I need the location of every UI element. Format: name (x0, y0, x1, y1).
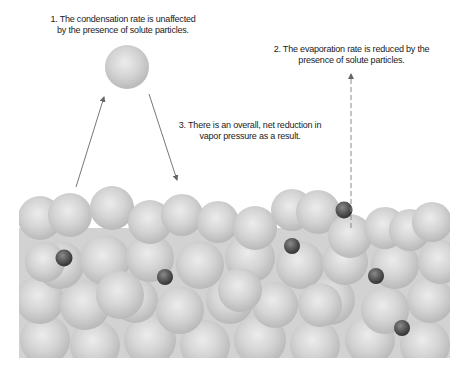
condensation-label: 1. The condensation rate is unaffected b… (38, 14, 208, 36)
condensation-label-line-2: by the presence of solute particles. (38, 25, 208, 36)
solute-particle (56, 250, 73, 267)
diagram-canvas: 1. The condensation rate is unaffected b… (0, 0, 465, 375)
solute-particle (368, 268, 384, 284)
solute-particle (157, 269, 173, 285)
vapor-particle (105, 45, 149, 89)
net-reduction-label-line-2: vapor pressure as a result. (160, 131, 340, 142)
net-reduction-label: 3. There is an overall, net reduction in… (160, 120, 340, 142)
evaporation-label-line-1: 2. The evaporation rate is reduced by th… (264, 44, 439, 55)
solute-particle (394, 320, 410, 336)
evaporation-label: 2. The evaporation rate is reduced by th… (264, 44, 439, 66)
evaporation-arrow (76, 97, 104, 187)
evaporation-label-line-2: presence of solute particles. (264, 55, 439, 66)
liquid-region (16, 186, 462, 370)
solute-particle (284, 238, 300, 254)
solute-particle (336, 202, 353, 219)
net-reduction-label-line-1: 3. There is an overall, net reduction in (160, 120, 340, 131)
condensation-label-line-1: 1. The condensation rate is unaffected (38, 14, 208, 25)
